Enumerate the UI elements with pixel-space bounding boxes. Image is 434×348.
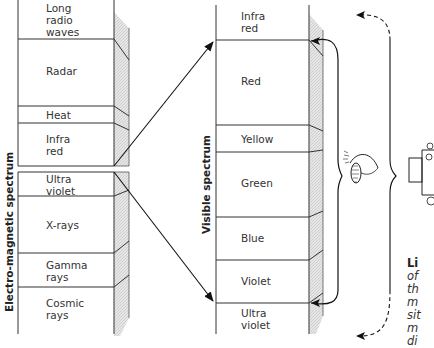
figure-caption: Li of th m sit m di <box>407 257 421 348</box>
caption-line: di <box>407 335 421 348</box>
visible-band-blue: Blue <box>241 232 264 244</box>
caption-title: Li <box>407 256 418 270</box>
em-band-x-rays: X-rays <box>46 219 79 231</box>
em-column-side-bottom <box>114 172 129 336</box>
em-band-infrared: Infra red <box>46 133 70 157</box>
camera-icon <box>409 143 434 205</box>
em-band-ultraviolet: Ultra violet <box>46 173 75 197</box>
em-band-radar: Radar <box>46 65 77 77</box>
visible-band-violet: Violet <box>241 275 271 287</box>
em-band-gamma-rays: Gamma rays <box>46 259 87 283</box>
visible-band-ultraviolet: Ultra violet <box>241 307 270 331</box>
em-spectrum-axis-label: Electro-magnetic spectrum <box>3 152 15 312</box>
em-band-long-radio-waves: Long radio waves <box>46 2 79 38</box>
visible-band-infrared: Infra red <box>241 10 265 34</box>
visible-band-red: Red <box>241 75 261 87</box>
visible-band-green: Green <box>241 177 273 189</box>
em-spectrum-column <box>18 0 129 336</box>
em-column-side-top <box>114 12 129 166</box>
eye-icon <box>343 151 378 183</box>
visible-column-side <box>309 14 323 334</box>
em-band-heat: Heat <box>46 109 71 121</box>
camera-range-bracket <box>356 11 396 340</box>
em-band-cosmic-rays: Cosmic rays <box>46 297 84 321</box>
visible-band-yellow: Yellow <box>241 133 273 145</box>
visible-spectrum-axis-label: Visible spectrum <box>200 135 212 234</box>
